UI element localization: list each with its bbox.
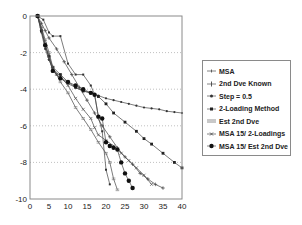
square-marker-icon [207,105,216,113]
plus-marker-icon [207,80,216,88]
y-axis-ticks: 0-2-4-6-8-10 [15,12,27,204]
x-tick-label: 10 [64,202,73,211]
y-tick-label: -10 [15,195,27,204]
series-msa-15-2-loadings [36,15,153,186]
y-tick-label: -4 [20,85,28,94]
legend-label: 2-Loading Method [219,105,279,112]
small-dot-marker-icon [207,92,216,100]
x-tick-label: 30 [140,202,149,211]
legend-item-msa15-2-loadings: MSA 15/ 2-Loadings [207,128,290,141]
legend: MSA 2nd Dve Known Step = 0.5 2-Loading M… [202,60,291,156]
series-msa [37,15,111,185]
x-tick-label: 25 [121,202,130,211]
legend-item-2-loading-method: 2-Loading Method [207,103,290,116]
legend-label: Est 2nd Dve [219,118,259,125]
y-tick-label: 0 [23,12,28,21]
legend-item-msa15-est-2nd-dve: MSA 15/ Est 2nd Dve [207,140,290,153]
legend-label: 2nd Dve Known [219,80,272,87]
y-tick-label: -2 [20,49,28,58]
legend-label: MSA [219,68,235,75]
asterisk-marker-icon [207,130,216,138]
legend-label: MSA 15/ Est 2nd Dve [219,143,288,150]
legend-item-est-2nd-dve: Est 2nd Dve [207,115,290,128]
legend-item-2nd-dve-known: 2nd Dve Known [207,78,290,91]
x-tick-label: 20 [102,202,111,211]
legend-item-step-0-5: Step = 0.5 [207,90,290,103]
dash-marker-icon [207,117,216,125]
x-tick-label: 0 [28,202,33,211]
plus-small-marker-icon [207,67,216,75]
x-tick-label: 15 [83,202,92,211]
y-tick-label: -8 [20,158,28,167]
legend-label: MSA 15/ 2-Loadings [219,130,285,137]
x-axis-ticks: 0510152025303540 [28,202,187,211]
series-step-0-5 [37,15,184,114]
large-dot-marker-icon [207,142,216,150]
y-tick-label: -6 [20,122,28,131]
x-tick-label: 35 [159,202,168,211]
legend-label: Step = 0.5 [219,93,252,100]
legend-item-msa: MSA [207,65,290,78]
series-lines [35,14,183,191]
x-tick-label: 40 [178,202,187,211]
series-2nd-dve-known [36,14,165,190]
x-tick-label: 5 [47,202,52,211]
